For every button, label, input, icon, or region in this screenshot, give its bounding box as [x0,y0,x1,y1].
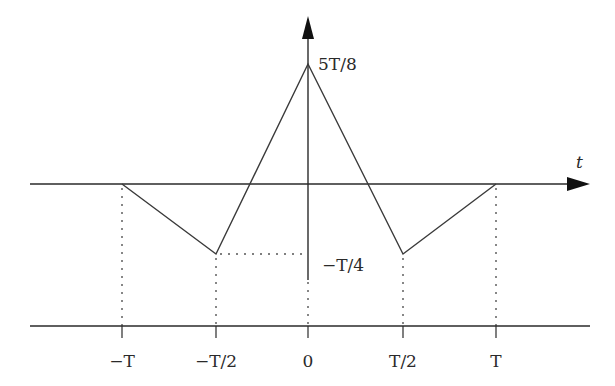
tick-labels: −T −T/2 0 T/2 T [109,351,502,371]
signal-line [122,64,496,254]
t-axis [30,177,590,191]
min-label: −T/4 [322,255,364,275]
tick-label-neg-t: −T [109,351,135,371]
tick-label-neg-half-t: −T/2 [195,351,237,371]
tick-label-half-t: T/2 [389,351,417,371]
peak-label: 5T/8 [318,54,357,74]
tick-label-t: T [490,351,502,371]
t-axis-arrow-icon [567,177,590,191]
t-axis-label: t [576,152,583,172]
vertical-axis-arrow-icon [302,16,314,39]
dotted-guides [122,188,496,326]
tick-label-zero: 0 [303,351,314,371]
bottom-axis [30,326,590,338]
diagram: t 5T/8 −T/4 −T −T/2 0 T/2 T [0,0,615,386]
